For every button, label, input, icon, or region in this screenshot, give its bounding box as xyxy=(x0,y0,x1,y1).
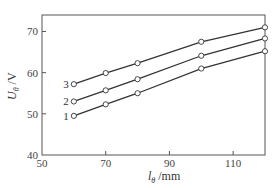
y-tick-label: 60 xyxy=(27,67,39,79)
y-tick-label: 50 xyxy=(27,108,39,120)
data-point-marker xyxy=(199,39,204,44)
series-label: 2 xyxy=(63,95,69,107)
y-axis-title: Uθ /V xyxy=(5,72,21,100)
series-label: 3 xyxy=(63,78,69,90)
data-point-marker xyxy=(71,113,76,118)
data-point-marker xyxy=(262,36,267,41)
x-tick-label: 110 xyxy=(225,157,242,169)
data-point-marker xyxy=(135,77,140,82)
axis-ticks: 50709011040506070 xyxy=(27,25,242,169)
series-2: 2 xyxy=(63,36,267,108)
data-point-marker xyxy=(135,61,140,66)
data-point-marker xyxy=(103,88,108,93)
data-series: 123 xyxy=(63,25,267,122)
x-axis-title: lθ /mm xyxy=(148,169,181,185)
data-point-marker xyxy=(71,82,76,87)
x-tick-label: 50 xyxy=(37,157,49,169)
line-chart: 50709011040506070 123 lθ /mm Uθ /V xyxy=(0,0,276,188)
data-point-marker xyxy=(103,70,108,75)
data-point-marker xyxy=(71,99,76,104)
data-point-marker xyxy=(199,66,204,71)
data-point-marker xyxy=(135,91,140,96)
x-tick-label: 70 xyxy=(100,157,112,169)
series-label: 1 xyxy=(63,110,69,122)
data-point-marker xyxy=(262,49,267,54)
series-3: 3 xyxy=(63,25,267,90)
data-point-marker xyxy=(262,25,267,30)
series-1: 1 xyxy=(63,49,267,122)
data-point-marker xyxy=(199,53,204,58)
data-point-marker xyxy=(103,102,108,107)
x-tick-label: 90 xyxy=(164,157,176,169)
y-tick-label: 40 xyxy=(27,149,39,161)
y-tick-label: 70 xyxy=(27,25,39,37)
